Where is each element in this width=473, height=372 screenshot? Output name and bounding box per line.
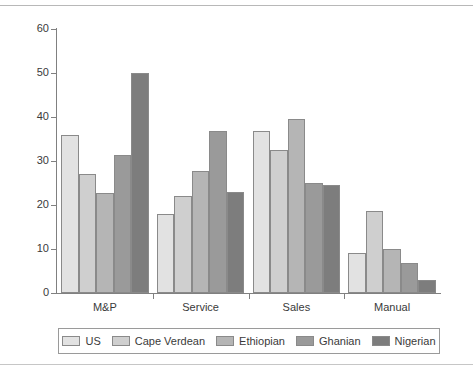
y-tick-mark [51,293,57,294]
plot-area [57,29,440,293]
legend-label: Cape Verdean [135,335,205,347]
legend-label: Ethiopian [239,335,285,347]
bar [253,131,271,293]
legend-item[interactable]: Ethiopian [216,335,285,347]
y-tick-label: 50 [9,66,49,78]
x-axis-category-label: Sales [283,301,311,313]
legend-item[interactable]: Cape Verdean [112,335,205,347]
x-tick-mark [153,294,154,299]
legend-swatch-icon [296,336,314,346]
y-tick-label: 40 [9,110,49,122]
bar [418,280,436,293]
bar [192,171,210,293]
top-divider-rule [0,5,473,6]
y-tick-label: 10 [9,242,49,254]
x-axis-category-label: Service [182,301,219,313]
bar [96,193,114,293]
legend-swatch-icon [112,336,130,346]
bar [305,183,323,293]
bar [401,263,419,293]
y-tick-label: 0 [9,286,49,298]
bar [157,214,175,293]
legend-item[interactable]: Nigerian [372,335,436,347]
bar [270,150,288,293]
bar [79,174,97,293]
bar [227,192,245,293]
legend-item[interactable]: Ghanian [296,335,361,347]
bar [61,135,79,293]
legend-swatch-icon [62,336,80,346]
legend-label: Ghanian [319,335,361,347]
y-tick-label: 60 [9,22,49,34]
x-tick-mark [249,294,250,299]
bar [348,253,366,293]
bar [383,249,401,293]
chart-legend: USCape VerdeanEthiopianGhanianNigerian [58,328,440,354]
x-tick-mark [344,294,345,299]
bar [288,119,306,293]
bar [323,185,341,293]
legend-item[interactable]: US [62,335,100,347]
bottom-divider-rule [0,364,473,365]
legend-swatch-icon [216,336,234,346]
x-axis-category-label: Manual [374,301,410,313]
legend-label: Nigerian [395,335,436,347]
bar [174,196,192,293]
x-axis-category-label: M&P [93,301,117,313]
legend-label: US [85,335,100,347]
y-tick-label: 20 [9,198,49,210]
y-tick-label: 30 [9,154,49,166]
bar [366,211,384,293]
chart-figure: 0102030405060 M&PServiceSalesManual USCa… [0,0,473,372]
legend-swatch-icon [372,336,390,346]
bar [209,131,227,293]
bar [131,73,149,293]
bar [114,155,132,293]
